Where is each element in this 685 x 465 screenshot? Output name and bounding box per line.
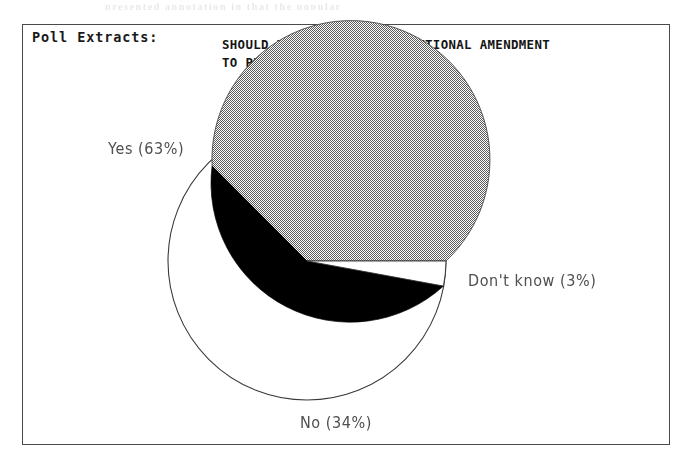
pie-label-dont-know: Don't know (3%) (468, 272, 596, 290)
pie-chart (0, 0, 685, 465)
pie-label-no: No (34%) (300, 414, 372, 432)
pie-label-yes: Yes (63%) (108, 140, 184, 158)
